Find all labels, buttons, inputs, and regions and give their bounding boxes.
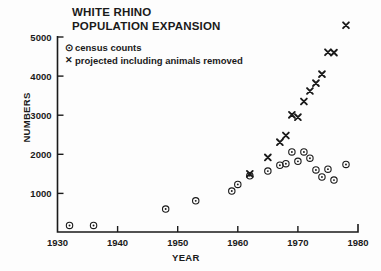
data-point-projected — [295, 114, 301, 120]
y-tick-label: 3000 — [30, 110, 51, 121]
x-tick-label: 1930 — [47, 237, 68, 248]
data-point-projected — [289, 112, 295, 118]
data-point-projected — [283, 133, 289, 139]
data-point-census — [331, 177, 337, 183]
x-tick-label: 1940 — [107, 237, 128, 248]
data-point-census — [325, 166, 331, 172]
data-point-census — [229, 188, 235, 194]
data-point-projected — [277, 139, 283, 145]
data-point-census — [289, 149, 295, 155]
series-projected — [247, 22, 349, 176]
data-point-census — [235, 181, 241, 187]
x-tick-label: 1970 — [287, 237, 308, 248]
data-point-projected — [307, 88, 313, 94]
y-tick-label: 1000 — [30, 188, 51, 199]
axes — [58, 36, 359, 232]
data-point-census — [319, 174, 325, 180]
data-point-census — [295, 158, 301, 164]
data-point-census — [66, 222, 72, 228]
y-tick-label: 4000 — [30, 71, 51, 82]
data-point-projected — [331, 50, 337, 56]
data-point-projected — [325, 49, 331, 55]
plot-area: 193019401950196019701980 100020003000400… — [0, 0, 381, 271]
y-axis-ticks: 10002000300040005000 — [30, 32, 63, 199]
data-point-census — [193, 198, 199, 204]
x-tick-label: 1960 — [227, 237, 248, 248]
chart-figure: WHITE RHINO POPULATION EXPANSION ⊙ censu… — [0, 0, 381, 271]
x-tick-label: 1980 — [347, 237, 368, 248]
data-point-census — [307, 155, 313, 161]
data-point-projected — [319, 71, 325, 77]
y-tick-label: 2000 — [30, 149, 51, 160]
data-point-projected — [313, 80, 319, 86]
data-point-projected — [343, 22, 349, 28]
data-point-census — [277, 162, 283, 168]
data-point-projected — [301, 99, 307, 105]
y-tick-label: 5000 — [30, 32, 51, 43]
x-tick-label: 1950 — [167, 237, 188, 248]
data-point-census — [283, 160, 289, 166]
data-point-census — [313, 167, 319, 173]
series-census-counts — [66, 149, 349, 229]
data-point-census — [343, 161, 349, 167]
data-point-census — [162, 206, 168, 212]
data-point-census — [265, 168, 271, 174]
data-point-census — [301, 149, 307, 155]
data-point-census — [90, 222, 96, 228]
data-point-projected — [265, 155, 271, 161]
x-axis-ticks: 193019401950196019701980 — [47, 226, 369, 248]
